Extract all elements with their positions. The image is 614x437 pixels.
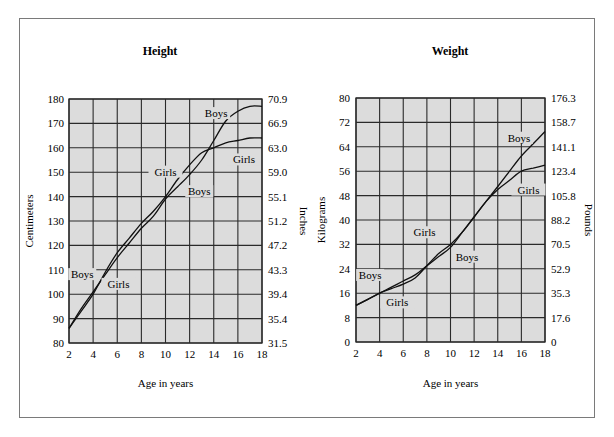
- y-tick-label: 56: [339, 165, 351, 177]
- x-tick-label: 18: [257, 348, 269, 360]
- x-axis-label: Age in years: [423, 377, 479, 389]
- y-right-tick-label: 141.1: [551, 141, 576, 153]
- x-tick-label: 10: [160, 348, 172, 360]
- y-right-tick-label: 39.4: [268, 288, 288, 300]
- y-right-tick-label: 0: [551, 336, 557, 348]
- y-tick-label: 80: [53, 337, 65, 349]
- chart-title: Weight: [432, 44, 469, 58]
- y-right-tick-label: 31.5: [268, 337, 288, 349]
- x-tick-label: 14: [492, 347, 504, 359]
- y-tick-label: 130: [48, 215, 65, 227]
- y-right-tick-label: 17.6: [551, 312, 571, 324]
- height-chart: Height2468101214161880901001101201301401…: [23, 44, 310, 389]
- curve-label-girls: Girls: [517, 184, 539, 196]
- y-tick-label: 80: [339, 92, 351, 104]
- curve-label-girls: Girls: [414, 226, 436, 238]
- y-right-tick-label: 59.0: [268, 166, 288, 178]
- y-right-tick-label: 47.2: [268, 239, 287, 251]
- y-tick-label: 90: [53, 313, 65, 325]
- y-right-tick-label: 55.1: [268, 191, 287, 203]
- y-tick-label: 64: [339, 141, 351, 153]
- y-tick-label: 110: [48, 264, 65, 276]
- curve-label-girls: Girls: [155, 166, 177, 178]
- y-tick-label: 40: [339, 214, 351, 226]
- curve-label-girls: Girls: [386, 296, 408, 308]
- x-tick-label: 14: [208, 348, 220, 360]
- y-tick-label: 100: [48, 288, 65, 300]
- y-right-tick-label: 158.7: [551, 116, 576, 128]
- y-tick-label: 48: [339, 190, 351, 202]
- x-tick-label: 16: [232, 348, 244, 360]
- y-right-axis-label: Pounds: [583, 204, 595, 236]
- curve-label-boys: Boys: [508, 132, 531, 144]
- y-tick-label: 72: [339, 116, 350, 128]
- y-right-tick-label: 88.2: [551, 214, 570, 226]
- y-right-tick-label: 35.4: [268, 313, 288, 325]
- curve-label-girls: Girls: [107, 278, 129, 290]
- y-tick-label: 8: [345, 312, 351, 324]
- y-right-axis-label: Inches: [298, 207, 310, 236]
- x-tick-label: 8: [424, 347, 430, 359]
- curve-label-boys: Boys: [205, 107, 228, 119]
- y-tick-label: 160: [48, 142, 65, 154]
- y-right-tick-label: 176.3: [551, 92, 576, 104]
- curve-label-boys: Boys: [71, 268, 94, 280]
- y-right-tick-label: 66.9: [268, 117, 288, 129]
- x-tick-label: 10: [445, 347, 457, 359]
- x-tick-label: 4: [90, 348, 96, 360]
- y-tick-label: 0: [345, 336, 351, 348]
- y-tick-label: 32: [339, 238, 350, 250]
- y-tick-label: 180: [48, 93, 65, 105]
- x-axis-label: Age in years: [138, 377, 194, 389]
- y-right-tick-label: 52.9: [551, 263, 571, 275]
- x-tick-label: 2: [66, 348, 72, 360]
- y-right-tick-label: 123.4: [551, 165, 576, 177]
- y-right-tick-label: 105.8: [551, 190, 576, 202]
- y-right-tick-label: 35.3: [551, 287, 571, 299]
- growth-charts: Height2468101214161880901001101201301401…: [0, 0, 614, 437]
- x-tick-label: 2: [353, 347, 359, 359]
- y-right-tick-label: 70.5: [551, 238, 571, 250]
- x-tick-label: 6: [115, 348, 121, 360]
- y-tick-label: 140: [48, 191, 65, 203]
- y-tick-label: 150: [48, 166, 65, 178]
- x-tick-label: 4: [377, 347, 383, 359]
- curve-label-boys: Boys: [359, 269, 382, 281]
- y-tick-label: 170: [48, 117, 65, 129]
- x-tick-label: 18: [540, 347, 552, 359]
- curve-label-girls: Girls: [233, 153, 255, 165]
- y-right-tick-label: 70.9: [268, 93, 288, 105]
- y-tick-label: 24: [339, 263, 351, 275]
- y-tick-label: 120: [48, 239, 65, 251]
- x-tick-label: 8: [139, 348, 145, 360]
- y-right-tick-label: 51.2: [268, 215, 287, 227]
- curve-label-boys: Boys: [456, 251, 479, 263]
- y-axis-label: Kilograms: [315, 197, 327, 243]
- y-right-tick-label: 63.0: [268, 142, 288, 154]
- x-tick-label: 16: [516, 347, 528, 359]
- weight-chart: Weight2468101214161808162432404856647280…: [315, 44, 595, 389]
- chart-title: Height: [143, 44, 178, 58]
- y-tick-label: 16: [339, 287, 351, 299]
- x-tick-label: 6: [401, 347, 407, 359]
- curve-label-boys: Boys: [188, 185, 211, 197]
- y-right-tick-label: 43.3: [268, 264, 288, 276]
- x-tick-label: 12: [469, 347, 480, 359]
- y-axis-label: Centimeters: [23, 194, 35, 247]
- x-tick-label: 12: [184, 348, 195, 360]
